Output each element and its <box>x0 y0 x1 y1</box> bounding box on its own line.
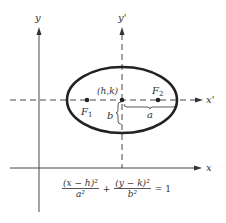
term-1: (x − h)² a² <box>62 178 99 199</box>
b-brace <box>116 102 121 124</box>
semi-minor-label: b <box>107 110 113 121</box>
y-axis-label: y <box>34 12 41 23</box>
focus-2-point <box>156 98 161 103</box>
y-prime-axis-arrow-icon <box>120 27 125 35</box>
term-2-denominator: b² <box>128 189 137 199</box>
equation-rhs: = 1 <box>155 184 171 194</box>
y-axis-arrow-icon <box>37 27 42 35</box>
x-axis-label: x <box>206 162 212 173</box>
ellipse-equation: (x − h)² a² + (y − k)² b² = 1 <box>62 178 171 199</box>
focus-1-point <box>85 98 90 103</box>
center-point <box>120 98 125 103</box>
focus-2-label: F2 <box>151 85 163 98</box>
term-1-denominator: a² <box>76 189 85 199</box>
term-2-numerator: (y − k)² <box>114 178 150 189</box>
x-prime-axis-label: x' <box>206 94 214 105</box>
y-prime-axis-label: y' <box>117 12 126 23</box>
focus-1-label: F1 <box>80 106 92 119</box>
plus-sign: + <box>103 184 111 194</box>
x-axis-arrow-icon <box>194 166 202 171</box>
semi-major-label: a <box>147 109 153 120</box>
x-prime-axis-arrow-icon <box>195 98 203 103</box>
term-2: (y − k)² b² <box>114 178 150 199</box>
center-label: (h,k) <box>97 86 119 96</box>
term-1-numerator: (x − h)² <box>62 178 99 189</box>
